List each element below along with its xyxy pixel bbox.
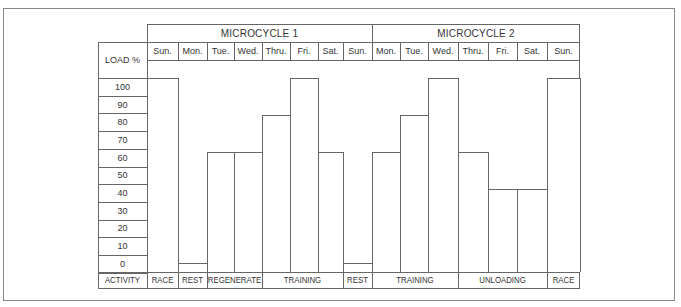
activity-cell: UNLOADING	[462, 272, 544, 288]
y-tick-label: 80	[98, 113, 147, 131]
activity-divider	[262, 272, 263, 288]
activity-divider	[547, 272, 548, 288]
load-bar	[207, 152, 235, 272]
load-bar	[262, 115, 291, 272]
y-tick-label: 30	[98, 202, 147, 220]
y-tick-label: 20	[98, 220, 147, 238]
y-tick-label: 70	[98, 131, 147, 149]
day-header: Sun.	[343, 42, 372, 60]
activity-row-bottom-line	[98, 288, 580, 289]
day-divider	[290, 42, 291, 60]
activity-divider	[207, 272, 208, 288]
day-header: Sat.	[318, 42, 343, 60]
day-header: Sat.	[517, 42, 547, 60]
day-divider	[488, 42, 489, 60]
load-bar	[488, 189, 518, 272]
day-header: Sun.	[147, 42, 178, 60]
day-divider	[547, 42, 548, 60]
activity-cell: RACE	[148, 272, 177, 288]
load-bar	[234, 152, 263, 272]
load-bar	[343, 263, 373, 272]
day-divider	[318, 42, 319, 60]
activity-divider	[372, 272, 373, 288]
day-header: Thru.	[262, 42, 290, 60]
day-header: Fri.	[290, 42, 318, 60]
microcycle-2-label: MICROCYCLE 2	[372, 24, 580, 42]
day-divider	[207, 42, 208, 60]
day-header: Tue.	[207, 42, 234, 60]
load-bar	[517, 189, 548, 272]
day-header: Mon.	[372, 42, 400, 60]
load-bar	[372, 152, 401, 272]
y-tick-label: 0	[98, 255, 147, 273]
activity-cell: TRAINING	[375, 272, 454, 288]
day-divider	[372, 42, 373, 60]
load-bar	[400, 115, 429, 272]
day-header: Tue.	[400, 42, 428, 60]
y-tick-label: 50	[98, 167, 147, 185]
activity-divider	[147, 272, 148, 288]
activity-label: ACTIVITY	[100, 272, 145, 288]
activity-cell: TRAINING	[265, 272, 340, 288]
day-divider	[262, 42, 263, 60]
day-header: Mon.	[178, 42, 207, 60]
load-bar	[290, 78, 319, 272]
day-divider	[343, 42, 344, 60]
activity-cell: REST	[179, 272, 206, 288]
day-header: Fri.	[488, 42, 517, 60]
activity-divider	[178, 272, 179, 288]
day-divider	[517, 42, 518, 60]
load-bar	[178, 263, 208, 272]
load-bar	[458, 152, 489, 272]
activity-divider	[458, 272, 459, 288]
day-divider	[234, 42, 235, 60]
day-header: Sun.	[547, 42, 580, 60]
y-tick-label: 100	[98, 78, 147, 96]
activity-cell: REGENERATE	[209, 272, 260, 288]
microcycle-1-label: MICROCYCLE 1	[147, 24, 372, 42]
day-header: Thru.	[458, 42, 488, 60]
day-header: Wed.	[428, 42, 458, 60]
activity-divider	[343, 272, 344, 288]
y-tick-label: 10	[98, 237, 147, 255]
day-divider	[458, 42, 459, 60]
y-tick-label: 90	[98, 96, 147, 114]
day-divider	[178, 42, 179, 60]
load-percent-label: LOAD %	[98, 42, 147, 78]
load-bar	[547, 78, 581, 272]
y-tick-label: 40	[98, 184, 147, 202]
day-divider	[428, 42, 429, 60]
y-tick-label: 60	[98, 149, 147, 167]
load-bar	[428, 78, 459, 272]
day-divider	[400, 42, 401, 60]
load-bar	[147, 78, 179, 272]
load-bar	[318, 152, 344, 272]
activity-cell: REST	[344, 272, 371, 288]
day-row-bottom-line	[147, 60, 580, 61]
day-header: Wed.	[234, 42, 262, 60]
activity-cell: RACE	[548, 272, 578, 288]
